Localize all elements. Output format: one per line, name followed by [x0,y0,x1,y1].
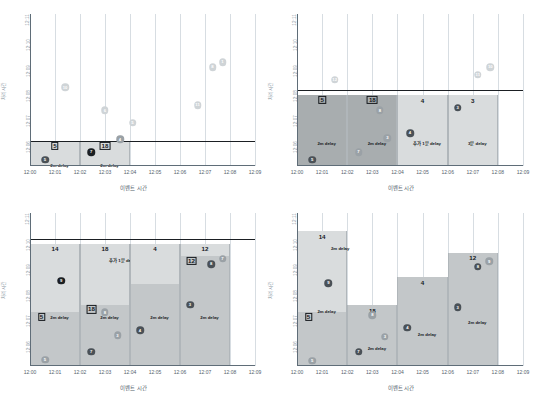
panel-top-left: 52m delay182m delay1065118147512:0612:07… [0,0,267,199]
gridline-vertical [230,14,231,166]
x-axis-tick-label: 12:01 [316,369,329,375]
event-dot: 9 [485,258,493,266]
delay-annotation: 2m delay [317,140,335,145]
x-axis-tick-label: 12:09 [517,369,530,375]
delay-annotation: 3분 delay [468,140,487,146]
delay-annotation: 2m delay [418,331,436,336]
window-inner-count-label: 5 [305,313,312,321]
event-dot: 3 [454,304,462,312]
x-axis-title: 이벤트 시간 [0,184,267,192]
x-axis-tick-label: 12:09 [249,369,262,375]
x-axis-line [30,165,255,166]
event-dot: 8 [376,107,384,115]
event-dot: 7 [219,255,227,263]
x-axis-tick-label: 12:07 [467,369,480,375]
window-bar [347,95,397,166]
event-dot: 3 [186,301,194,309]
x-axis-line [297,165,523,166]
window-bar-lower [130,284,180,366]
event-dot: 7 [355,348,363,356]
event-dot: 10 [61,84,69,92]
window-count-label: 14 [52,245,59,252]
panel-top-right: 52m delay182m delay4추가 1분 delay33분 delay… [267,0,535,199]
watermark-line [30,239,255,240]
x-axis-tick-label: 12:01 [49,369,62,375]
x-axis-tick-label: 12:04 [391,169,404,175]
event-dot: 8 [101,309,109,317]
y-axis-line [297,14,298,166]
y-axis-line [30,213,31,366]
x-axis-title: 이벤트 시간 [267,384,535,392]
x-axis-tick-label: 12:05 [416,369,429,375]
window-bar-lower [180,256,230,366]
x-axis-tick-label: 12:04 [124,369,137,375]
event-dot: 7 [355,148,363,156]
event-dot: 3 [381,333,389,341]
delay-annotation: 2m delay [200,315,218,320]
window-count-label: 4 [153,245,156,252]
x-axis-tick-label: 12:02 [341,169,354,175]
window-count-label: 18 [100,141,111,149]
window-count-label: 18 [367,96,378,104]
gridline-vertical [230,213,231,366]
x-axis-tick-label: 12:03 [366,369,379,375]
plot-area: 52m delay182m delay1065118147512:0612:07… [30,14,255,166]
event-dot: 5 [308,156,316,164]
delay-annotation: 2m delay [50,315,68,320]
window-count-label: 5 [318,96,325,104]
x-axis-tick-label: 12:00 [291,169,304,175]
x-axis-tick-label: 12:08 [492,169,505,175]
window-bar [297,95,347,166]
delay-annotation: 2m delay [368,345,386,350]
plot-area: 52m delay182m delay4추가 1분 delay33분 delay… [297,14,523,166]
x-axis-tick-label: 12:06 [441,169,454,175]
gridline-vertical [155,14,156,166]
x-axis-tick-label: 12:03 [99,169,112,175]
window-count-label: 4 [421,96,424,103]
event-dot: 7 [88,148,96,156]
event-dot: 6 [101,107,109,115]
watermark-line [30,141,255,142]
event-dot: 7 [88,348,96,356]
y-axis-title: 처리 시간 [0,82,6,99]
gridline-vertical [180,14,181,166]
x-axis-tick-label: 12:00 [291,369,304,375]
x-axis-tick-label: 12:06 [441,369,454,375]
event-dot: 10 [487,63,495,71]
event-dot: 9 [58,277,66,285]
x-axis-line [30,365,255,366]
x-axis-tick-label: 12:02 [341,369,354,375]
x-axis-tick-label: 12:03 [99,369,112,375]
window-inner-count-label: 5 [38,313,45,321]
window-count-label: 12 [202,245,209,252]
window-bar-upper [30,244,80,313]
window-bar-upper [80,244,130,305]
window-bar [397,95,447,166]
x-axis-tick-label: 12:00 [24,169,37,175]
event-dot: 4 [116,136,124,144]
delay-annotation: 2m delay [468,319,486,324]
event-dot: 8 [474,263,482,271]
event-dot: 3 [384,134,392,142]
x-axis-line [297,365,523,366]
delay-annotation: 2m delay [368,140,386,145]
x-axis-tick-label: 12:08 [224,169,237,175]
window-count-label: 18 [102,245,109,252]
gridline-vertical [498,213,499,366]
event-dot: 8 [208,260,216,268]
event-dot: 3 [114,332,122,340]
gridline-vertical [523,213,524,366]
event-dot: 8 [369,311,377,319]
event-dot: 11 [474,71,482,79]
x-axis-tick-label: 12:06 [174,369,187,375]
delay-annotation: 2m delay [317,308,335,313]
window-count-label: 4 [421,278,424,285]
x-axis-tick-label: 12:09 [517,169,530,175]
gridline-vertical [523,14,524,166]
gridline-vertical [255,14,256,166]
x-axis-tick-label: 12:02 [74,169,87,175]
x-axis-tick-label: 12:08 [224,369,237,375]
event-dot: 9 [325,279,333,287]
panel-bottom-right: 1452m delay2m delay182m delay42m delay12… [267,199,535,399]
event-dot: 8 [209,63,217,71]
